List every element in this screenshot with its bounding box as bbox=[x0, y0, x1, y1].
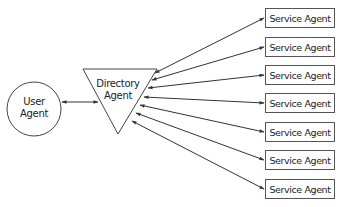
user-agent-label: User Agent bbox=[10, 96, 58, 120]
service-agent-node-1: Service Agent bbox=[265, 8, 335, 28]
service-agent-node-2: Service Agent bbox=[265, 37, 335, 57]
edge-directory-service-1 bbox=[155, 18, 264, 73]
user-agent-label-line1: User bbox=[10, 96, 58, 108]
edge-directory-service-4 bbox=[144, 97, 264, 103]
edge-directory-service-6 bbox=[136, 113, 264, 160]
service-agent-label: Service Agent bbox=[269, 127, 330, 138]
service-agent-node-5: Service Agent bbox=[265, 122, 335, 142]
edge-directory-service-5 bbox=[140, 105, 264, 132]
service-agent-label: Service Agent bbox=[269, 98, 330, 109]
edge-directory-service-7 bbox=[132, 121, 264, 189]
service-agent-node-7: Service Agent bbox=[265, 179, 335, 199]
service-agent-label: Service Agent bbox=[269, 155, 330, 166]
service-agent-label: Service Agent bbox=[269, 184, 330, 195]
user-agent-label-line2: Agent bbox=[10, 108, 58, 120]
service-agent-node-3: Service Agent bbox=[265, 65, 335, 85]
service-agent-label: Service Agent bbox=[269, 70, 330, 81]
edge-directory-service-3 bbox=[148, 75, 264, 88]
directory-agent-label-line2: Agent bbox=[90, 90, 146, 102]
service-edges bbox=[132, 18, 264, 189]
service-agent-node-6: Service Agent bbox=[265, 150, 335, 170]
directory-agent-label-line1: Directory bbox=[90, 78, 146, 90]
directory-agent-label: Directory Agent bbox=[90, 78, 146, 102]
edge-directory-service-2 bbox=[152, 47, 264, 80]
service-agent-label: Service Agent bbox=[269, 42, 330, 53]
service-agent-node-4: Service Agent bbox=[265, 93, 335, 113]
service-agent-label: Service Agent bbox=[269, 13, 330, 24]
